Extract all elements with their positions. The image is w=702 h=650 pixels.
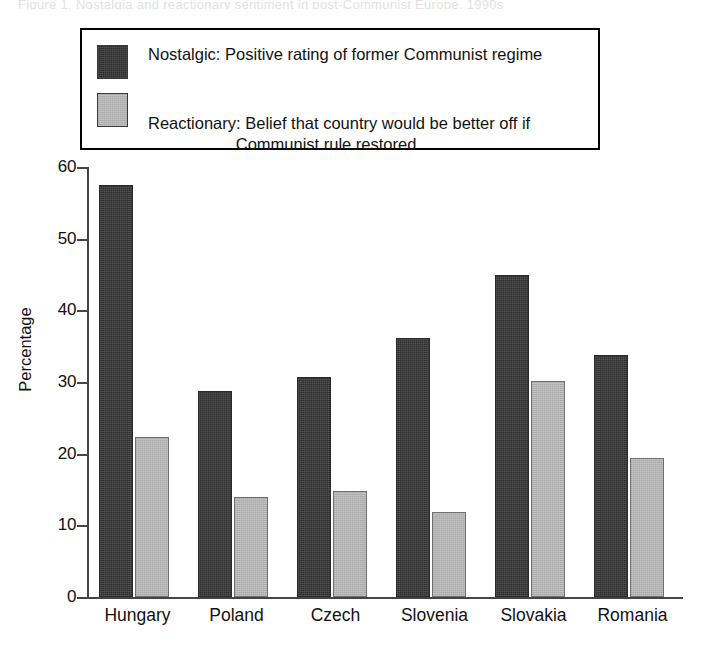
bar-reactionary-poland[interactable] (234, 497, 268, 597)
y-axis-tick: 60 (77, 167, 88, 169)
y-axis-tick-label: 30 (17, 373, 77, 390)
bar-reactionary-hungary[interactable] (135, 437, 169, 597)
bar-group: Czech (286, 167, 385, 597)
y-axis-tick: 20 (77, 454, 88, 456)
bar-group: Slovakia (484, 167, 583, 597)
bar-group: Slovenia (385, 167, 484, 597)
bar-chart-figure: Figure 1. Nostalgia and reactionary sent… (0, 0, 702, 650)
bar-groups: HungaryPolandCzechSloveniaSlovakiaRomani… (88, 167, 682, 597)
bar-nostalgic-czech[interactable] (297, 377, 331, 597)
y-axis-tick-label: 60 (17, 158, 77, 175)
bar-nostalgic-romania[interactable] (594, 355, 628, 597)
bar-reactionary-slovakia[interactable] (531, 381, 565, 597)
bar-reactionary-slovenia[interactable] (432, 512, 466, 597)
plot-area: 0102030405060 HungaryPolandCzechSlovenia… (88, 167, 682, 597)
x-axis-line (87, 597, 683, 599)
legend-label-nostalgic: Nostalgic: Positive rating of former Com… (148, 44, 542, 65)
bar-nostalgic-slovenia[interactable] (396, 338, 430, 597)
legend-label-reactionary-line2: Communist rule restored (148, 134, 530, 155)
y-axis-tick: 10 (77, 525, 88, 527)
legend-label-reactionary: Reactionary: Belief that country would b… (148, 92, 530, 176)
y-axis-tick-label: 10 (17, 516, 77, 533)
y-axis-tick: 30 (77, 382, 88, 384)
bar-nostalgic-slovakia[interactable] (495, 275, 529, 597)
y-axis-tick: 0 (77, 597, 88, 599)
figure-caption-sliver: Figure 1. Nostalgia and reactionary sent… (18, 0, 678, 9)
y-axis-tick: 50 (77, 239, 88, 241)
bar-group: Poland (187, 167, 286, 597)
y-axis-tick-label: 40 (17, 301, 77, 318)
x-axis-category-label: Romania (573, 605, 692, 625)
y-axis-label: Percentage (16, 270, 35, 430)
legend-swatch-nostalgic-icon (97, 45, 128, 79)
legend-swatch-reactionary-icon (97, 93, 128, 127)
y-axis-tick-label: 20 (17, 445, 77, 462)
bar-group: Romania (583, 167, 682, 597)
legend-label-reactionary-line1: Reactionary: Belief that country would b… (148, 114, 530, 132)
bar-reactionary-czech[interactable] (333, 491, 367, 597)
bar-nostalgic-hungary[interactable] (99, 185, 133, 597)
y-axis-tick-label: 0 (17, 588, 77, 605)
y-axis-tick-label: 50 (17, 230, 77, 247)
legend-entry-nostalgic: Nostalgic: Positive rating of former Com… (82, 44, 598, 79)
bar-reactionary-romania[interactable] (630, 458, 664, 597)
bar-nostalgic-poland[interactable] (198, 391, 232, 597)
bar-group: Hungary (88, 167, 187, 597)
legend-entry-reactionary: Reactionary: Belief that country would b… (82, 92, 598, 176)
y-axis-tick: 40 (77, 310, 88, 312)
chart-legend: Nostalgic: Positive rating of former Com… (80, 28, 600, 150)
